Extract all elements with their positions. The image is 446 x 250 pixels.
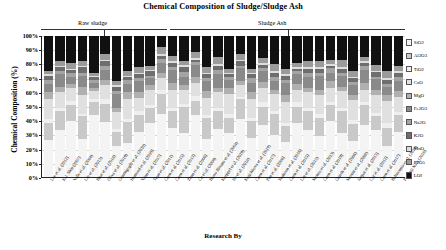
bar-segment-fe2o3 bbox=[371, 79, 381, 90]
bar-segment-cao bbox=[270, 94, 280, 111]
bar-segment-sio2 bbox=[44, 140, 54, 177]
legend-item-na2o[interactable]: Na2O bbox=[406, 118, 446, 127]
bar-segment-mgo bbox=[247, 92, 257, 99]
y-axis-tick-labels: 0%10%20%30%40%50%60%70%80%90%100% bbox=[0, 36, 41, 178]
legend-item-p2o5[interactable]: P2O5 bbox=[406, 158, 446, 167]
bar-segment-fe2o3 bbox=[168, 70, 178, 83]
legend-item-mno[interactable]: MnO bbox=[406, 144, 446, 153]
bar-segment-fe2o3 bbox=[145, 78, 155, 85]
y-axis-tick-label: 30% bbox=[26, 132, 38, 138]
bar-segment-fe2o3 bbox=[66, 77, 76, 84]
bar-column[interactable] bbox=[44, 36, 54, 177]
bar-segment-loi bbox=[134, 36, 144, 67]
bar-segment-fe2o3 bbox=[134, 81, 144, 92]
legend-label: CaO bbox=[414, 80, 423, 85]
legend-item-loi[interactable]: LOI bbox=[406, 171, 446, 180]
y-axis-tick-label: 50% bbox=[26, 104, 38, 110]
bar-segment-al2o3 bbox=[382, 128, 392, 146]
bar-segment-cao bbox=[191, 83, 201, 96]
bar-segment-cao bbox=[326, 88, 336, 102]
group-bracket-sludge-ash bbox=[170, 29, 405, 36]
bar-segment-loi bbox=[145, 36, 155, 66]
bar-segment-loi bbox=[326, 36, 336, 60]
bar-segment-mgo bbox=[44, 92, 54, 99]
legend-item-mgo[interactable]: MgO bbox=[406, 91, 446, 100]
legend-swatch bbox=[406, 119, 412, 125]
group-annotation-sludge-ash: Sludge Ash bbox=[258, 19, 286, 26]
bar-segment-fe2o3 bbox=[292, 74, 302, 84]
bar-segment-cao bbox=[179, 90, 189, 105]
bar-segment-loi bbox=[303, 36, 313, 61]
group-bracket-raw-sludge bbox=[41, 29, 167, 36]
legend-item-k2o[interactable]: K2O bbox=[406, 131, 446, 140]
y-axis-tick-label: 20% bbox=[26, 147, 38, 153]
bar-segment-fe2o3 bbox=[179, 77, 189, 86]
bar-segment-cao bbox=[292, 90, 302, 103]
legend-label: K2O bbox=[414, 133, 424, 138]
bar-segment-mgo bbox=[168, 83, 178, 90]
bar-segment-fe2o3 bbox=[123, 84, 133, 92]
bar-segment-loi bbox=[394, 36, 404, 66]
bar-segment-loi bbox=[157, 36, 167, 47]
legend-item-al2o3[interactable]: Al2O3 bbox=[406, 51, 446, 60]
bar-segment-loi bbox=[348, 36, 358, 71]
legend-item-sio2[interactable]: SiO2 bbox=[406, 38, 446, 47]
bar-column[interactable] bbox=[213, 36, 223, 177]
bar-segment-mgo bbox=[326, 81, 336, 88]
bar-segment-al2o3 bbox=[112, 132, 122, 146]
bar-segment-fe2o3 bbox=[348, 85, 358, 95]
chart-title: Chemical Composition of Sludge/Sludge As… bbox=[0, 2, 446, 11]
bar-segment-cao bbox=[100, 85, 110, 99]
bar-segment-cao bbox=[66, 88, 76, 101]
bar-segment-loi bbox=[292, 36, 302, 63]
bar-segment-fe2o3 bbox=[326, 73, 336, 81]
bar-segment-p2o5 bbox=[270, 64, 280, 71]
bar-segment-loi bbox=[89, 36, 99, 73]
bar-segment-cao bbox=[213, 92, 223, 108]
bar-segment-al2o3 bbox=[281, 126, 291, 142]
bar-segment-cao bbox=[78, 95, 88, 113]
bar-segment-loi bbox=[179, 36, 189, 61]
chart-container: Chemical Composition of Sludge/Sludge As… bbox=[0, 0, 446, 250]
y-axis-tick-label: 40% bbox=[26, 118, 38, 124]
legend-swatch bbox=[406, 79, 412, 85]
legend-label: MgO bbox=[414, 93, 424, 98]
bar-segment-fe2o3 bbox=[258, 71, 268, 83]
legend-swatch bbox=[406, 146, 412, 152]
legend-label: Al2O3 bbox=[414, 53, 427, 58]
bar-segment-mgo bbox=[281, 95, 291, 102]
bar-segment-al2o3 bbox=[191, 101, 201, 116]
bar-segment-al2o3 bbox=[371, 116, 381, 130]
bar-segment-cao bbox=[315, 95, 325, 113]
legend-item-tio2[interactable]: TiO2 bbox=[406, 65, 446, 74]
legend-swatch bbox=[406, 39, 412, 45]
bar-segment-loi bbox=[44, 36, 54, 71]
bar-segment-fe2o3 bbox=[281, 83, 291, 96]
bar-segment-cao bbox=[168, 90, 178, 108]
bar-segment-cao bbox=[134, 98, 144, 111]
legend-item-fe2o3[interactable]: Fe2O3 bbox=[406, 104, 446, 113]
bar-segment-p2o5 bbox=[213, 57, 223, 64]
bar-segment-loi bbox=[281, 36, 291, 68]
bar-segment-al2o3 bbox=[55, 111, 65, 131]
y-axis-tick-label: 0% bbox=[29, 175, 38, 181]
bar-segment-mgo bbox=[202, 91, 212, 98]
y-axis-tick-label: 60% bbox=[26, 90, 38, 96]
bar-segment-al2o3 bbox=[78, 116, 88, 139]
bar-column[interactable] bbox=[55, 36, 65, 177]
bar-segment-loi bbox=[168, 36, 178, 56]
bar-segment-al2o3 bbox=[303, 111, 313, 131]
bar-segment-al2o3 bbox=[179, 107, 189, 133]
legend-item-cao[interactable]: CaO bbox=[406, 78, 446, 87]
bar-segment-loi bbox=[258, 36, 268, 58]
legend-label: MnO bbox=[414, 146, 424, 151]
bar-segment-fe2o3 bbox=[191, 65, 201, 77]
bar-segment-al2o3 bbox=[258, 107, 268, 126]
bar-segment-al2o3 bbox=[202, 118, 212, 139]
bar-segment-cao bbox=[258, 88, 268, 102]
bar-segment-al2o3 bbox=[236, 99, 246, 119]
bar-column[interactable] bbox=[247, 36, 257, 177]
bar-segment-al2o3 bbox=[44, 123, 54, 140]
legend-swatch bbox=[406, 172, 412, 178]
bar-segment-fe2o3 bbox=[236, 68, 246, 81]
